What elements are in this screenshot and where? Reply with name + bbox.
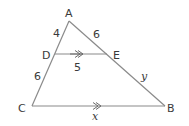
measure-ae: 6	[93, 28, 100, 41]
parallel-mark-de-icon	[70, 51, 83, 58]
vertex-label-e: E	[113, 49, 120, 62]
measure-cb: x	[92, 110, 99, 123]
side-ac	[32, 21, 69, 106]
vertex-label-c: C	[18, 102, 26, 115]
vertex-label-a: A	[65, 7, 73, 20]
side-ab	[69, 21, 165, 106]
triangle-diagram: A B C D E 4 6 5 6 y x	[0, 0, 189, 126]
vertex-label-b: B	[167, 102, 175, 115]
measure-dc: 6	[34, 70, 41, 83]
measure-ad: 4	[53, 27, 60, 40]
vertex-label-d: D	[42, 49, 50, 62]
measure-de: 5	[74, 61, 81, 74]
measure-eb: y	[140, 70, 148, 83]
